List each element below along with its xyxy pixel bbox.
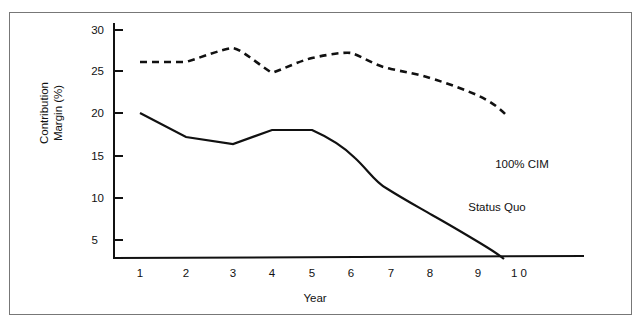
y-axis-title-line2: Margin (%) bbox=[52, 85, 64, 141]
series-label-status-quo: Status Quo bbox=[468, 201, 526, 213]
x-tick-label: 5 bbox=[309, 267, 315, 279]
series-100-cim-line bbox=[140, 48, 508, 117]
x-tick-label: 8 bbox=[427, 267, 433, 279]
series-status-quo-line bbox=[140, 113, 504, 259]
x-tick-label: 9 bbox=[475, 267, 481, 279]
series-label-100-cim: 100% CIM bbox=[495, 158, 549, 170]
y-tick-label: 10 bbox=[91, 192, 104, 204]
x-tick-label: 3 bbox=[230, 267, 236, 279]
y-tick-label: 30 bbox=[91, 24, 104, 36]
x-tick-label: 7 bbox=[388, 267, 394, 279]
x-tick-label: 2 bbox=[183, 267, 189, 279]
x-axis bbox=[113, 256, 584, 258]
x-tick-label: 1 0 bbox=[511, 267, 527, 279]
x-tick-label: 1 bbox=[137, 267, 143, 279]
y-axis-title-line1: Contribution bbox=[38, 82, 50, 144]
x-axis-title: Year bbox=[303, 292, 326, 304]
y-tick-label: 20 bbox=[91, 107, 104, 119]
line-chart: 30 25 20 15 10 5 Contribution Margin (%)… bbox=[0, 0, 643, 320]
y-tick-label: 5 bbox=[92, 234, 98, 246]
y-tick-label: 15 bbox=[91, 150, 104, 162]
y-tick-label: 25 bbox=[91, 65, 104, 77]
y-ticks bbox=[114, 30, 123, 240]
x-tick-label: 4 bbox=[269, 267, 276, 279]
x-tick-label: 6 bbox=[348, 267, 354, 279]
